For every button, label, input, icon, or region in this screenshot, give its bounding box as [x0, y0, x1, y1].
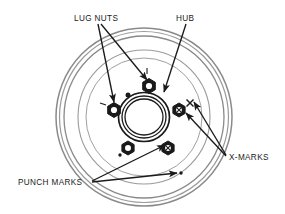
lug-nut-right: [173, 103, 185, 117]
lug-nut-top: [143, 79, 156, 94]
leader-lug-nuts-left: [98, 24, 114, 102]
drum-outer-rings: [56, 28, 232, 206]
drum-ring-3: [64, 36, 224, 198]
tick-mark-left: [100, 103, 106, 105]
brake-drum-diagram: LUG NUTS HUB X-MARKS PUNCH MARKS: [0, 0, 285, 214]
drum-ring-outermost: [56, 28, 232, 206]
punch-mark-lower-left: [118, 153, 121, 156]
lug-nut-bottom-left-bore: [125, 145, 131, 151]
x-mark-drum-face: [187, 100, 194, 107]
lug-nut-top-bore: [146, 83, 152, 89]
lug-nut-bottom-right: [162, 141, 174, 155]
diagram-page: LUG NUTS HUB X-MARKS PUNCH MARKS: [0, 0, 285, 214]
label-hub: HUB: [176, 14, 195, 23]
leader-lines: [92, 24, 226, 182]
label-x-marks: X-MARKS: [229, 153, 269, 162]
hub-ring-outer: [119, 93, 170, 142]
lug-nut-left-bore: [111, 107, 117, 113]
label-lug-nuts: LUG NUTS: [74, 14, 118, 23]
hub-ring-inner: [125, 99, 163, 135]
hub-ring-middle: [122, 96, 166, 138]
lug-nut-bottom-left: [122, 141, 134, 155]
hub-assembly: [119, 93, 170, 142]
label-punch-marks: PUNCH MARKS: [18, 178, 83, 187]
punch-mark-lower-right: [179, 171, 182, 174]
punch-mark-top: [126, 93, 131, 98]
lug-nut-left: [108, 103, 121, 118]
